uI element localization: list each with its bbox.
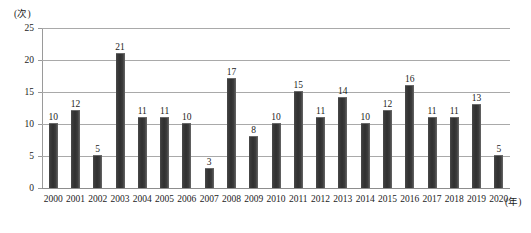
category-label: 2016 xyxy=(400,194,419,204)
bar-column[interactable]: 17 xyxy=(227,28,236,188)
y-axis-unit-label: (次) xyxy=(14,6,31,20)
category-label: 2019 xyxy=(467,194,486,204)
bar[interactable] xyxy=(71,110,80,188)
bar[interactable] xyxy=(227,78,236,188)
y-axis-tick-label: 5 xyxy=(29,151,34,161)
bar[interactable] xyxy=(494,155,503,188)
bar-value-label: 11 xyxy=(160,106,169,116)
category-label: 2008 xyxy=(222,194,241,204)
bar-value-label: 11 xyxy=(450,106,459,116)
category-label: 2011 xyxy=(289,194,308,204)
bar-value-label: 11 xyxy=(316,106,325,116)
y-axis-tick-label: 25 xyxy=(25,23,35,33)
bar-value-label: 10 xyxy=(271,112,281,122)
bar[interactable] xyxy=(428,117,437,188)
bar[interactable] xyxy=(361,123,370,188)
category-label: 2006 xyxy=(177,194,196,204)
bar[interactable] xyxy=(405,85,414,188)
bar[interactable] xyxy=(182,123,191,188)
category-label: 2013 xyxy=(333,194,352,204)
bar-value-label: 10 xyxy=(182,112,192,122)
bar-value-label: 5 xyxy=(496,144,501,154)
plot-area: 10125211111103178101511141012161111135 xyxy=(42,28,510,188)
category-label: 2007 xyxy=(200,194,219,204)
bar-value-label: 10 xyxy=(360,112,370,122)
bar[interactable] xyxy=(450,117,459,188)
bar[interactable] xyxy=(294,91,303,188)
bar[interactable] xyxy=(249,136,258,188)
bar-value-label: 16 xyxy=(405,74,415,84)
bar-value-label: 11 xyxy=(427,106,436,116)
bar-value-label: 14 xyxy=(338,86,348,96)
bar-column[interactable]: 12 xyxy=(71,28,80,188)
category-label: 2005 xyxy=(155,194,174,204)
bar-column[interactable]: 10 xyxy=(272,28,281,188)
bar-column[interactable]: 16 xyxy=(405,28,414,188)
bar-value-label: 10 xyxy=(48,112,58,122)
bar[interactable] xyxy=(138,117,147,188)
bar-column[interactable]: 11 xyxy=(138,28,147,188)
bar-column[interactable]: 8 xyxy=(249,28,258,188)
category-label: 2018 xyxy=(445,194,464,204)
bar[interactable] xyxy=(93,155,102,188)
bar-column[interactable]: 5 xyxy=(494,28,503,188)
gridline xyxy=(42,188,510,189)
y-axis-tick-label: 10 xyxy=(25,119,35,129)
bar-column[interactable]: 11 xyxy=(450,28,459,188)
bar-value-label: 21 xyxy=(115,42,125,52)
bar[interactable] xyxy=(383,110,392,188)
y-axis-tick-label: 0 xyxy=(29,183,34,193)
bar-column[interactable]: 5 xyxy=(93,28,102,188)
bar-value-label: 5 xyxy=(95,144,100,154)
bar-column[interactable]: 14 xyxy=(338,28,347,188)
bar-column[interactable]: 3 xyxy=(205,28,214,188)
bar-column[interactable]: 10 xyxy=(361,28,370,188)
bar[interactable] xyxy=(160,117,169,188)
category-label: 2017 xyxy=(423,194,442,204)
bar-column[interactable]: 12 xyxy=(383,28,392,188)
bar-column[interactable]: 11 xyxy=(160,28,169,188)
category-label: 2003 xyxy=(111,194,130,204)
bar[interactable] xyxy=(272,123,281,188)
bar-value-label: 12 xyxy=(383,99,393,109)
category-label: 2015 xyxy=(378,194,397,204)
bar-column[interactable]: 10 xyxy=(49,28,58,188)
bar[interactable] xyxy=(472,104,481,188)
y-axis-tick-label: 20 xyxy=(25,55,35,65)
bar-column[interactable]: 11 xyxy=(428,28,437,188)
category-label: 2010 xyxy=(267,194,286,204)
category-label: 2001 xyxy=(66,194,85,204)
category-label: 2012 xyxy=(311,194,330,204)
bar-column[interactable]: 15 xyxy=(294,28,303,188)
category-label: 2014 xyxy=(356,194,375,204)
x-axis-unit-label: (年) xyxy=(505,194,521,208)
category-label: 2000 xyxy=(44,194,63,204)
bar-column[interactable]: 10 xyxy=(182,28,191,188)
category-axis-labels: 2000200120022003200420052006200720082009… xyxy=(42,190,510,214)
bar-value-label: 12 xyxy=(71,99,81,109)
bar-column[interactable]: 21 xyxy=(116,28,125,188)
bar-series: 10125211111103178101511141012161111135 xyxy=(42,28,510,188)
bar-value-label: 8 xyxy=(251,125,256,135)
bar[interactable] xyxy=(205,168,214,188)
category-label: 2002 xyxy=(88,194,107,204)
y-axis-tick-label: 15 xyxy=(25,87,35,97)
bar-value-label: 13 xyxy=(472,93,482,103)
bar-value-label: 3 xyxy=(207,157,212,167)
category-label: 2009 xyxy=(244,194,263,204)
bar[interactable] xyxy=(49,123,58,188)
y-axis-tick-labels: 0510152025 xyxy=(0,28,38,188)
bar[interactable] xyxy=(116,53,125,188)
category-label: 2004 xyxy=(133,194,152,204)
bar[interactable] xyxy=(338,97,347,188)
bar[interactable] xyxy=(316,117,325,188)
bar-value-label: 17 xyxy=(227,67,237,77)
bar-chart: (次) 0510152025 1012521111110317810151114… xyxy=(0,0,531,233)
bar-value-label: 11 xyxy=(138,106,147,116)
bar-column[interactable]: 11 xyxy=(316,28,325,188)
bar-value-label: 15 xyxy=(294,80,304,90)
bar-column[interactable]: 13 xyxy=(472,28,481,188)
